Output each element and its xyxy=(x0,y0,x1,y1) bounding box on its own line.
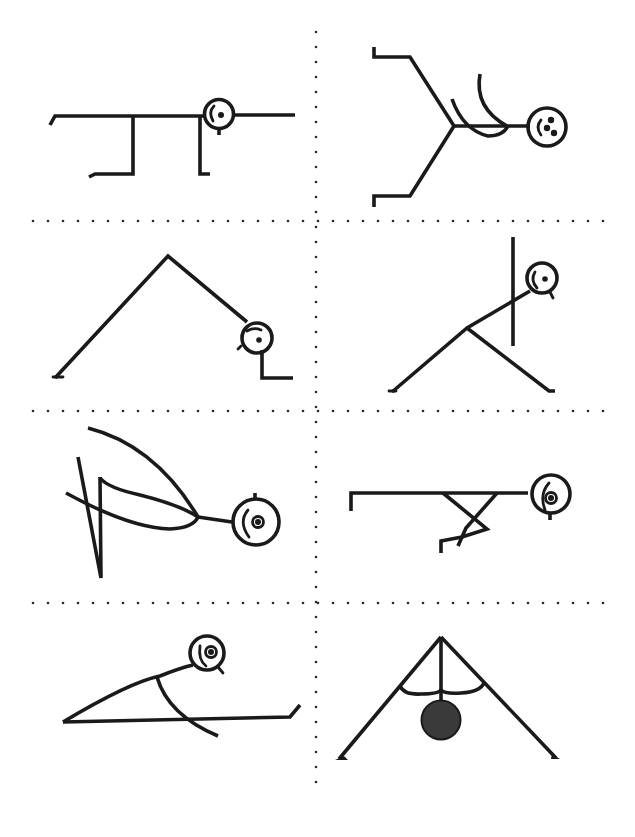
vertical-divider-dot xyxy=(315,136,318,139)
horizontal-divider-dot xyxy=(377,602,380,605)
horizontal-divider-dot xyxy=(407,602,410,605)
vertical-divider-dot xyxy=(315,646,318,649)
horizontal-divider-dot xyxy=(332,602,335,605)
horizontal-divider-dot xyxy=(512,220,515,223)
horizontal-divider-dot xyxy=(257,220,260,223)
face-icon xyxy=(528,108,566,146)
vertical-divider-dot xyxy=(315,691,318,694)
horizontal-divider-dot xyxy=(332,410,335,413)
vertical-divider-dot xyxy=(315,571,318,574)
horizontal-divider-dot xyxy=(32,410,35,413)
horizontal-divider-dot xyxy=(92,410,95,413)
horizontal-divider-dot xyxy=(32,220,35,223)
horizontal-divider-dot xyxy=(77,602,80,605)
horizontal-divider-dot xyxy=(77,220,80,223)
horizontal-divider-dot xyxy=(272,410,275,413)
horizontal-divider-dot xyxy=(32,602,35,605)
vertical-divider-dot xyxy=(315,496,318,499)
vertical-divider-dot xyxy=(315,61,318,64)
horizontal-divider-dot xyxy=(437,410,440,413)
horizontal-divider-dot xyxy=(467,602,470,605)
horizontal-divider-dot xyxy=(302,410,305,413)
horizontal-divider-dot xyxy=(587,602,590,605)
vertical-divider-dot xyxy=(315,736,318,739)
vertical-divider-dot xyxy=(315,151,318,154)
pose-table-top xyxy=(50,100,295,178)
vertical-divider-dot xyxy=(315,286,318,289)
horizontal-divider-dot xyxy=(572,410,575,413)
horizontal-divider-dot xyxy=(347,602,350,605)
horizontal-divider-dot xyxy=(497,220,500,223)
vertical-divider-dot xyxy=(315,511,318,514)
horizontal-divider-dot xyxy=(47,220,50,223)
horizontal-divider-dot xyxy=(182,602,185,605)
horizontal-divider-dot xyxy=(122,410,125,413)
horizontal-divider-dot xyxy=(167,410,170,413)
horizontal-divider-dot xyxy=(362,410,365,413)
horizontal-divider-dot xyxy=(122,220,125,223)
vertical-divider-dot xyxy=(315,661,318,664)
body-plank xyxy=(351,493,528,511)
vertical-divider-dot xyxy=(315,271,318,274)
vertical-divider-dot xyxy=(315,31,318,34)
horizontal-divider-dot xyxy=(302,220,305,223)
vertical-divider-dot xyxy=(315,241,318,244)
horizontal-divider-dot xyxy=(542,220,545,223)
vertical-divider-dot xyxy=(315,586,318,589)
horizontal-divider-dot xyxy=(512,602,515,605)
horizontal-divider-dot xyxy=(542,602,545,605)
horizontal-divider-dot xyxy=(137,602,140,605)
vertical-divider-dot xyxy=(315,751,318,754)
horizontal-divider-dot xyxy=(377,220,380,223)
horizontal-divider-dot xyxy=(167,220,170,223)
vertical-divider-dot xyxy=(315,631,318,634)
front-leg xyxy=(467,328,555,391)
back-leg xyxy=(392,291,530,392)
vertical-divider-dot xyxy=(315,76,318,79)
head-icon xyxy=(238,323,272,353)
horizontal-divider-dot xyxy=(317,602,320,605)
horizontal-divider-dot xyxy=(377,410,380,413)
arm-curve-2 xyxy=(479,74,507,126)
vertical-divider-dot xyxy=(315,91,318,94)
foot-right xyxy=(551,754,560,759)
vertical-divider-dot xyxy=(315,316,318,319)
head-icon xyxy=(190,636,224,673)
horizontal-divider-dot xyxy=(197,410,200,413)
horizontal-divider-dot xyxy=(437,220,440,223)
horizontal-divider-dot xyxy=(332,220,335,223)
vertical-divider-dot xyxy=(315,676,318,679)
leg-right xyxy=(441,637,556,758)
vertical-divider-dot xyxy=(315,391,318,394)
horizontal-divider-dot xyxy=(317,410,320,413)
horizontal-divider-dot xyxy=(62,410,65,413)
horizontal-divider-dot xyxy=(407,410,410,413)
horizontal-divider-dot xyxy=(422,602,425,605)
horizontal-divider-dot xyxy=(542,410,545,413)
vertical-divider-dot xyxy=(315,706,318,709)
vertical-divider-dot xyxy=(315,166,318,169)
horizontal-divider-dot xyxy=(272,602,275,605)
horizontal-divider-dot xyxy=(557,602,560,605)
vertical-divider-dot xyxy=(315,226,318,229)
horizontal-divider-dot xyxy=(467,220,470,223)
vertical-divider-dot xyxy=(315,361,318,364)
horizontal-divider-dot xyxy=(587,410,590,413)
vertical-divider-dot xyxy=(315,376,318,379)
vertical-divider-dot xyxy=(315,436,318,439)
horizontal-divider-dot xyxy=(47,602,50,605)
pose-seated-split xyxy=(374,47,566,207)
vertical-divider-dot xyxy=(315,106,318,109)
horizontal-divider-dot xyxy=(92,602,95,605)
horizontal-divider-dot xyxy=(557,410,560,413)
vertical-divider-dot xyxy=(315,451,318,454)
horizontal-divider-dot xyxy=(62,220,65,223)
vertical-divider-dot xyxy=(315,766,318,769)
horizontal-divider-dot xyxy=(527,602,530,605)
head-ball-icon xyxy=(422,701,461,740)
horizontal-divider-dot xyxy=(452,602,455,605)
horizontal-divider-dot xyxy=(137,410,140,413)
horizontal-divider-dot xyxy=(227,220,230,223)
pose-triangle-twist xyxy=(389,237,557,392)
horizontal-divider-dot xyxy=(482,602,485,605)
